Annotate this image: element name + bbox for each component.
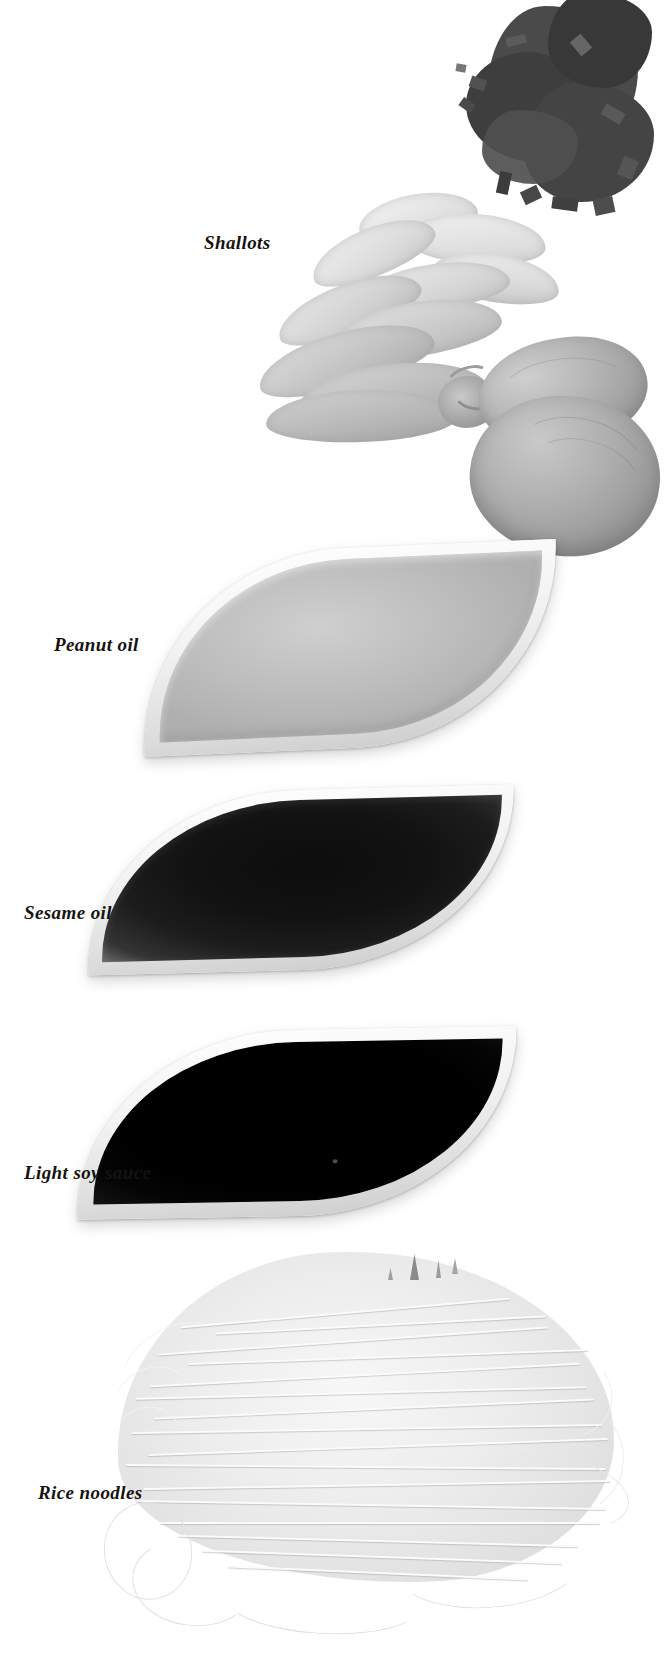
label-peanut-oil: Peanut oil <box>54 634 139 656</box>
light-soy-sauce-liquid <box>91 1038 506 1204</box>
peanut-oil-dish <box>136 539 564 757</box>
label-rice-noodles: Rice noodles <box>38 1482 143 1504</box>
peanut-oil-liquid <box>152 551 549 743</box>
light-soy-sauce-dish <box>74 1026 519 1220</box>
label-sesame-oil: Sesame oil <box>24 902 112 924</box>
label-shallots: Shallots <box>204 232 271 254</box>
label-light-soy-sauce: Light soy sauce <box>24 1162 151 1184</box>
shallots-image <box>240 180 634 600</box>
sesame-oil-liquid <box>98 795 506 963</box>
sesame-oil-dish <box>84 784 519 975</box>
rice-noodles-image <box>92 1216 634 1646</box>
